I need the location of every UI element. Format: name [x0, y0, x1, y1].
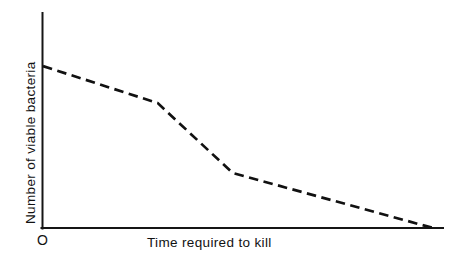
y-axis-label: Number of viable bacteria — [24, 61, 38, 224]
chart-figure: Number of viable bacteria Time required … — [0, 0, 457, 264]
survival-curve-line — [43, 66, 433, 228]
origin-label: O — [37, 233, 48, 247]
x-axis-label: Time required to kill — [147, 236, 272, 250]
chart-plot-area — [0, 0, 457, 264]
